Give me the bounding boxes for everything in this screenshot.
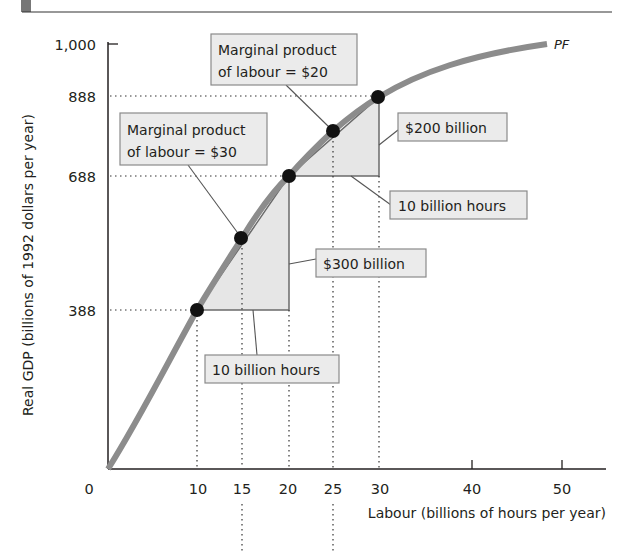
y-axis-title: Real GDP (billions of 1992 dollars per y… [20,114,36,416]
annotation-rise200: $200 billion [398,113,507,141]
point-30-888 [371,90,385,104]
point-15-538 [234,231,248,245]
x-tick-label-15: 15 [233,481,251,497]
mp20-line1: Marginal product [218,42,337,58]
y-tick-label-388: 388 [68,303,96,319]
point-25-788 [326,124,340,138]
mp20-line2: of labour = $20 [218,64,328,80]
x-tick-label-10: 10 [189,481,207,497]
annotation-run-lower: 10 billion hours [205,355,339,383]
annotation-rise300: $300 billion [316,249,426,277]
pf-label: PF [554,37,570,52]
run-lower-label: 10 billion hours [212,362,320,378]
rise200-label: $200 billion [405,120,487,136]
x-tick-label-25: 25 [324,481,342,497]
annotation-mp20: Marginal product of labour = $20 [211,34,357,85]
mp30-line1: Marginal product [127,122,246,138]
x-tick-label-0: 0 [84,481,93,497]
x-tick-label-50: 50 [553,481,571,497]
point-10-388 [190,303,204,317]
run-upper-label: 10 billion hours [398,198,506,214]
y-tick-label-1000: 1,000 [54,37,96,53]
x-tick-label-20: 20 [279,481,297,497]
x-axis-title: Labour (billions of hours per year) [368,505,606,521]
y-tick-label-888: 888 [68,89,96,105]
annotation-run-upper: 10 billion hours [390,191,527,219]
annotation-mp30: Marginal product of labour = $30 [120,113,267,165]
header-block [21,0,31,12]
production-function-chart: PF Marginal product of labour = $20 Marg… [0,0,626,551]
x-tick-label-40: 40 [463,481,481,497]
x-tick-label-30: 30 [371,481,389,497]
point-20-688 [282,169,296,183]
mp30-line2: of labour = $30 [127,144,237,160]
rise300-label: $300 billion [323,256,405,272]
y-tick-label-688: 688 [68,169,96,185]
